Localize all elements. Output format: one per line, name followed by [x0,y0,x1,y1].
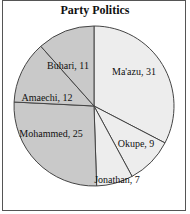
slice-label: Buhari, 11 [47,60,89,71]
pie-slice-mohammed [14,102,97,186]
slice-label: Ma'azu, 31 [112,66,156,77]
slice-label: Mohammed, 25 [19,128,82,139]
slice-label: Jonathan, 7 [94,174,140,185]
pie-chart: Ma'azu, 31Okupe, 9Jonathan, 7Mohammed, 2… [0,0,190,214]
slice-label: Okupe, 9 [118,138,155,149]
slice-label: Amaechi, 12 [21,92,72,103]
pie-slices [14,26,174,186]
